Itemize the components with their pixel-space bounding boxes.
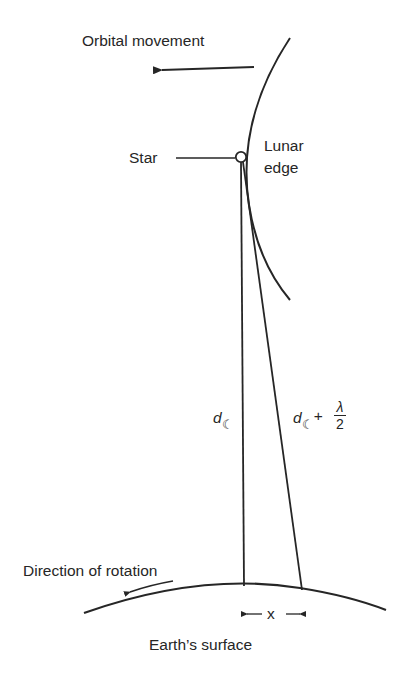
distance-d-label: d☾	[213, 410, 234, 426]
d-symbol: d	[293, 409, 302, 426]
star-icon	[236, 152, 246, 162]
earth-surface-arc	[84, 584, 386, 613]
moon-icon: ☾	[302, 417, 314, 432]
plus-sign: +	[314, 407, 323, 424]
earth-surface-label: Earth’s surface	[149, 637, 252, 653]
lunar-edge-label-line1: Lunar	[264, 138, 304, 154]
moon-icon: ☾	[222, 417, 234, 432]
lambda-over-two-fraction: λ 2	[334, 400, 346, 431]
orbital-movement-label: Orbital movement	[82, 33, 204, 49]
occultation-diagram	[0, 0, 405, 682]
x-dimension-label: x	[267, 606, 275, 622]
ray-d-plus-half-lambda	[243, 162, 302, 590]
lambda-symbol: λ	[337, 399, 344, 415]
denominator: 2	[336, 416, 344, 432]
lunar-edge-label-line2: edge	[264, 160, 298, 176]
distance-d-plus-half-lambda-label: d☾+	[293, 410, 323, 426]
star-label: Star	[129, 150, 157, 166]
d-symbol: d	[213, 409, 222, 426]
orbital-movement-arrow	[162, 67, 254, 70]
ray-d	[241, 162, 244, 586]
direction-of-rotation-label: Direction of rotation	[23, 563, 157, 579]
